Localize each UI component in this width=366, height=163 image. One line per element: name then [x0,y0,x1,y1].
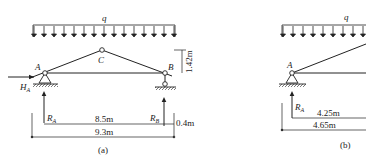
load-label-q-a: q [102,13,107,23]
horizontal-reaction-arrow [8,75,34,80]
joint-label-c: C [98,55,105,65]
reaction-arrow-b [162,97,167,126]
figure-b: q A RA 4.25m 4.65m (b) [279,12,366,150]
half-total-dimension-label: 4.65m [313,120,336,130]
load-label-q-b: q [344,12,349,22]
distributed-load-a [32,25,177,37]
joint-label-b: B [168,62,174,72]
reaction-arrow-a-b [290,91,295,118]
distributed-load-b [281,25,366,37]
truss-members-b [292,44,366,73]
reaction-label-a-b: RA [294,102,305,113]
total-dimension-label: 9.3m [95,127,113,137]
half-span-dimension-label: 4.25m [317,108,340,118]
roller-support-b [155,71,176,90]
joint-label-a-b: A [286,60,293,70]
caption-b: (b) [340,140,351,150]
horizontal-reaction-label: HA [19,82,31,93]
reaction-label-a: RA [46,113,57,124]
load-arrows-a [32,26,177,37]
offset-dimension-label: 0.4m [176,118,194,128]
truss-diagram: q C A HA B [0,0,366,163]
load-arrows-b [281,26,366,37]
rise-dimension-label: 1.42m [184,50,194,73]
caption-a: (a) [98,145,108,155]
hinge-c [100,48,105,53]
figure-a: q C A HA B [8,13,194,155]
reaction-label-b: RB [149,113,160,124]
span-dimension-label: 8.5m [95,114,113,124]
reaction-arrow-a [42,91,47,123]
joint-label-a: A [34,62,41,72]
